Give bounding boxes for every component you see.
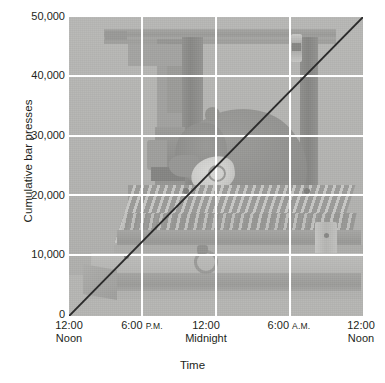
x-tick-time: 6:00 A.M. <box>265 319 313 333</box>
x-tick-time: 12:00 <box>49 319 89 332</box>
x-tick-label-noon-start: 12:00 Noon <box>49 319 89 345</box>
x-tick-time-value: 6:00 <box>121 319 142 331</box>
x-tick-period: Noon <box>49 332 89 345</box>
x-tick-period: Midnight <box>166 332 246 345</box>
x-axis-title: Time <box>0 359 385 371</box>
plot-area <box>69 17 363 316</box>
y-tick-label: 10,000 <box>3 249 65 260</box>
x-axis-tick-labels: 12:00 Noon 6:00 P.M. 12:00 Midnight 6:00… <box>0 319 385 359</box>
x-tick-label-6am: 6:00 A.M. <box>265 319 313 333</box>
x-tick-ampm: P.M. <box>146 321 163 331</box>
x-tick-label-6pm: 6:00 P.M. <box>118 319 166 333</box>
x-tick-time-value: 6:00 <box>268 319 289 331</box>
x-tick-label-noon-end: 12:00 Noon <box>340 319 382 345</box>
x-tick-ampm: A.M. <box>292 321 310 331</box>
x-tick-time: 6:00 P.M. <box>118 319 166 333</box>
cumulative-record-line <box>69 17 363 316</box>
x-tick-label-midnight: 12:00 Midnight <box>166 319 246 345</box>
x-tick-time: 12:00 <box>166 319 246 332</box>
x-tick-time: 12:00 <box>340 319 382 332</box>
x-tick-period: Noon <box>340 332 382 345</box>
y-tick-label: 40,000 <box>3 70 65 81</box>
y-tick-label: 30,000 <box>3 130 65 141</box>
cumulative-record-figure: Cumulative bar presses 50,000 40,000 30,… <box>0 0 385 383</box>
y-tick-label: 50,000 <box>3 11 65 22</box>
y-tick-label: 20,000 <box>3 190 65 201</box>
